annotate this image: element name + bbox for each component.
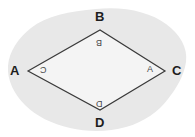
vertex-label-a: A [10, 64, 19, 77]
vertex-label-c: C [172, 64, 181, 77]
vertex-label-d: D [95, 116, 104, 129]
geometry-figure: A B C D C B A D [0, 0, 195, 137]
inner-angle-label-at-a: C [40, 65, 47, 74]
inner-angle-label-at-c: A [147, 65, 153, 74]
inner-angle-label-at-d: D [96, 99, 103, 108]
inner-angle-label-at-b: B [96, 38, 102, 47]
vertex-label-b: B [95, 10, 104, 23]
